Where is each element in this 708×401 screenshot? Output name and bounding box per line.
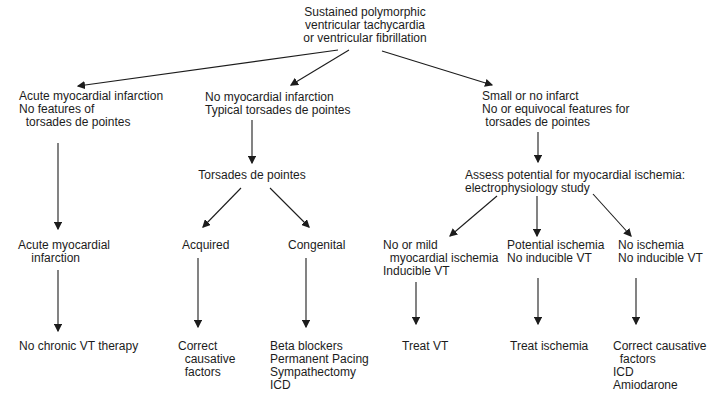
node-branch-right: Small or no infarct No or equivocal feat… bbox=[482, 90, 629, 129]
node-treat-ischemia: Treat ischemia bbox=[510, 340, 588, 353]
node-root: Sustained polymorphic ventricular tachyc… bbox=[265, 6, 465, 45]
node-correct-causative: Correct causative factors bbox=[178, 340, 235, 379]
arrow-assess-to-no-ischemia bbox=[593, 194, 631, 236]
node-acquired: Acquired bbox=[182, 239, 229, 252]
node-branch-middle: No myocardial infarction Typical torsade… bbox=[205, 91, 350, 117]
node-assess-ischemia: Assess potential for myocardial ischemia… bbox=[465, 169, 685, 195]
node-treat-vt: Treat VT bbox=[402, 340, 448, 353]
node-no-chronic-therapy: No chronic VT therapy bbox=[19, 340, 138, 353]
arrow-root-to-right-branch bbox=[382, 51, 492, 85]
node-correct-causative-icd: Correct causative factors ICD Amiodarone bbox=[613, 340, 706, 392]
node-torsades-de-pointes: Torsades de pointes bbox=[182, 169, 322, 182]
node-acute-mi: Acute myocardial infarction bbox=[18, 239, 110, 265]
node-no-mild-ischemia: No or mild myocardial ischemia Inducible… bbox=[383, 239, 498, 278]
node-branch-left: Acute myocardial infarction No features … bbox=[19, 90, 163, 129]
node-congenital: Congenital bbox=[288, 239, 345, 252]
arrow-assess-to-no-mild bbox=[450, 196, 497, 236]
arrow-torsades-to-acquired bbox=[203, 188, 241, 227]
node-potential-ischemia: Potential ischemia No inducible VT bbox=[507, 239, 604, 265]
node-no-ischemia: No ischemia No inducible VT bbox=[618, 239, 703, 265]
flowchart-figure: Sustained polymorphic ventricular tachyc… bbox=[0, 0, 708, 401]
node-beta-blockers: Beta blockers Permanent Pacing Sympathec… bbox=[270, 340, 369, 392]
arrow-torsades-to-congenital bbox=[270, 188, 309, 227]
